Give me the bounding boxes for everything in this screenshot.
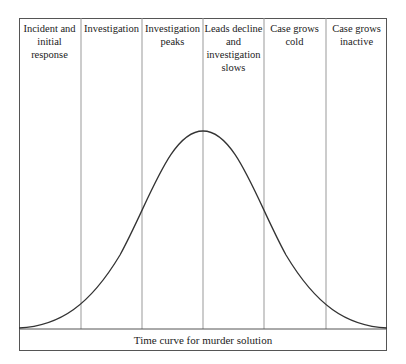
column-label-case-cold: Case grows cold	[264, 22, 325, 48]
column-label-incident: Incident and initial response	[19, 22, 80, 61]
column-label-investigation: Investigation	[81, 22, 142, 35]
diagram-caption: Time curve for murder solution	[19, 329, 387, 351]
column-label-leads-decline: Leads decline and investigation slows	[203, 22, 264, 74]
column-label-investigation-peaks: Investigation peaks	[142, 22, 203, 48]
column-label-case-inactive: Case grows inactive	[326, 22, 387, 48]
